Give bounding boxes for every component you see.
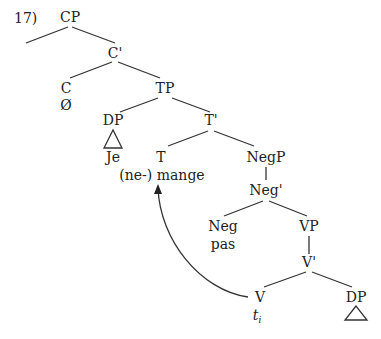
node-vp: VP (298, 218, 319, 234)
node-t: T (156, 149, 166, 165)
edge-vbar-dp (312, 272, 352, 287)
edge-tbar-t (168, 131, 208, 146)
edge-tp-dp (120, 98, 158, 112)
node-c-bar: C' (108, 45, 123, 61)
triangle-icon (345, 306, 367, 320)
arrowhead-icon (154, 184, 162, 194)
node-negp: NegP (247, 149, 286, 165)
node-v-trace: ti (253, 307, 262, 325)
node-tp: TP (156, 80, 175, 96)
syntax-tree: 17) CP C' C Ø TP DP Je T' T (ne-) mange … (0, 0, 381, 339)
node-cp: CP (60, 9, 80, 25)
node-dp-subj-word: Je (104, 149, 120, 165)
example-number: 17) (14, 10, 37, 26)
edge-tbar-negp (214, 131, 254, 146)
node-t-word: (ne-) mange (119, 167, 204, 183)
node-c: C (61, 80, 72, 96)
node-neg-word: pas (211, 236, 236, 252)
node-neg-bar: Neg' (249, 182, 282, 198)
edge-cbar-c (70, 62, 112, 78)
node-dp-subj: DP (103, 112, 124, 128)
node-v-bar: V' (301, 254, 316, 270)
node-t-bar: T' (204, 112, 217, 128)
edge-tp-tbar (172, 98, 210, 112)
edge-negbar-vp (269, 201, 307, 216)
edge-negbar-neg (224, 201, 263, 216)
triangle-icon (104, 130, 122, 148)
node-dp-obj: DP (346, 289, 367, 305)
edge-cp-spec (26, 27, 68, 43)
node-v: V (254, 289, 266, 305)
edge-cbar-tp (118, 62, 160, 78)
edge-vbar-v (264, 272, 306, 287)
node-neg: Neg (208, 218, 238, 234)
edge-cp-cbar (72, 27, 115, 43)
node-c-word: Ø (60, 97, 71, 113)
